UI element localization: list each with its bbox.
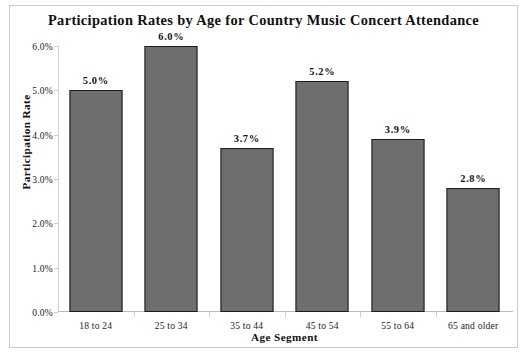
bar-group: 2.8%65 and older [436,46,512,312]
y-axis-tick-label: 1.0% [32,262,53,273]
x-axis-tick-mark [209,312,210,317]
bar-value-label: 2.8% [460,173,486,184]
y-axis-tick-label: 4.0% [32,129,53,140]
bar-group: 6.0%25 to 34 [134,46,210,312]
bar-value-label: 5.0% [83,75,109,86]
bar-value-label: 6.0% [158,31,184,42]
bar[interactable] [447,188,500,312]
x-axis-tick-mark [360,312,361,317]
x-axis-title: Age Segment [58,331,511,343]
x-axis-tick-mark [134,312,135,317]
bar[interactable] [145,46,198,312]
bar-value-label: 5.2% [309,66,335,77]
bar[interactable] [296,81,349,312]
bar-value-label: 3.9% [385,124,411,135]
bar[interactable] [220,148,273,312]
chart-title: Participation Rates by Age for Country M… [10,12,517,29]
y-axis-tick-label: 2.0% [32,218,53,229]
y-axis-tick-mark [54,312,58,313]
x-axis-tick-label: 55 to 64 [381,320,414,331]
y-axis-title: Participation Rate [20,82,32,202]
x-axis-tick-label: 45 to 54 [306,320,339,331]
x-axis-tick-label: 35 to 44 [230,320,263,331]
plot-area: 0.0%1.0%2.0%3.0%4.0%5.0%6.0%5.0%18 to 24… [58,46,511,312]
bar[interactable] [69,90,122,312]
y-axis-tick-label: 5.0% [32,85,53,96]
y-axis-tick-label: 6.0% [32,41,53,52]
bar[interactable] [371,139,424,312]
bar-group: 5.2%45 to 54 [285,46,361,312]
bar-group: 3.9%55 to 64 [360,46,436,312]
bar-value-label: 3.7% [234,133,260,144]
chart-frame: Participation Rates by Age for Country M… [9,5,518,348]
y-axis-tick-label: 3.0% [32,174,53,185]
bar-group: 5.0%18 to 24 [58,46,134,312]
x-axis-tick-label: 25 to 34 [155,320,188,331]
x-axis-tick-mark [285,312,286,317]
y-axis-tick-label: 0.0% [32,307,53,318]
x-axis-tick-label: 65 and older [448,320,498,331]
x-axis-tick-mark [436,312,437,317]
x-axis-tick-label: 18 to 24 [79,320,112,331]
bar-group: 3.7%35 to 44 [209,46,285,312]
